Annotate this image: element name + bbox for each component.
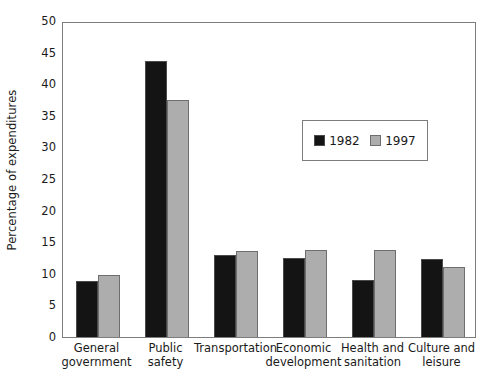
bar (76, 281, 98, 337)
plot-area (62, 22, 476, 338)
bar (167, 100, 189, 337)
legend-label: 1997 (385, 134, 416, 148)
bar-group (145, 23, 189, 337)
gray-square-swatch (370, 135, 381, 146)
legend-entry: 1982 (314, 134, 360, 148)
y-axis-tick-label: 5 (26, 301, 56, 313)
y-axis-tick-label: 0 (26, 332, 56, 344)
bar (374, 250, 396, 337)
bars-layer (63, 23, 475, 337)
legend-label: 1982 (329, 134, 360, 148)
black-square-swatch (314, 135, 325, 146)
y-axis-tick-label: 35 (26, 111, 56, 123)
bar (98, 275, 120, 337)
bar (421, 259, 443, 337)
bar-group (214, 23, 258, 337)
bar (283, 258, 305, 337)
bar-group (421, 23, 465, 337)
bar-group (76, 23, 120, 337)
bar (214, 255, 236, 337)
bar (352, 280, 374, 337)
y-axis-tick-label: 10 (26, 269, 56, 281)
y-axis-tick-label: 25 (26, 174, 56, 186)
y-axis-title-text: Percentage of expenditures (5, 90, 19, 251)
y-axis-tick-label: 45 (26, 48, 56, 60)
bar (236, 251, 258, 337)
bar-group (352, 23, 396, 337)
x-axis-tick-labels: GeneralgovernmentPublicsafetyTransportat… (62, 341, 476, 386)
x-axis-tick-label-line: safety (125, 355, 206, 369)
x-axis-tick-label-line: Culture and (401, 341, 482, 355)
y-axis-tick-labels: 05101520253035404550 (26, 22, 56, 338)
y-axis-tick-label: 50 (26, 16, 56, 28)
bar (145, 61, 167, 337)
legend: 19821997 (302, 120, 428, 161)
bar (305, 250, 327, 337)
x-axis-tick-label: Culture andleisure (401, 341, 482, 369)
y-axis-tick-label: 15 (26, 237, 56, 249)
x-axis-tick-label-line: leisure (401, 355, 482, 369)
legend-entry: 1997 (370, 134, 416, 148)
bar (443, 267, 465, 337)
y-axis-tick-label: 40 (26, 79, 56, 91)
bar-group (283, 23, 327, 337)
y-axis-tick-label: 20 (26, 206, 56, 218)
y-axis-tick-label: 30 (26, 143, 56, 155)
y-axis-title: Percentage of expenditures (0, 0, 24, 340)
bar-chart: Percentage of expenditures 0510152025303… (0, 0, 491, 388)
